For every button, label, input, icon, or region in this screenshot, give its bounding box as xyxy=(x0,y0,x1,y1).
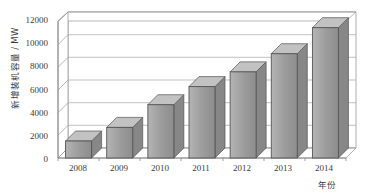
bar-chart: 新增装机容量 / MW 12000 10000 8000 6000 4000 2… xyxy=(0,0,376,194)
x-axis-title: 年份 xyxy=(318,178,336,190)
x-tick-label: 2011 xyxy=(178,163,224,173)
x-tick-label: 2010 xyxy=(137,163,183,173)
x-tick-label: 2012 xyxy=(219,163,265,173)
x-tick-label: 2013 xyxy=(260,163,306,173)
x-tick-label: 2014 xyxy=(301,163,347,173)
x-tick-label: 2008 xyxy=(55,163,101,173)
x-axis-tick-labels: 2008 2009 2010 2011 2012 2013 2014 xyxy=(0,0,376,194)
x-tick-label: 2009 xyxy=(96,163,142,173)
